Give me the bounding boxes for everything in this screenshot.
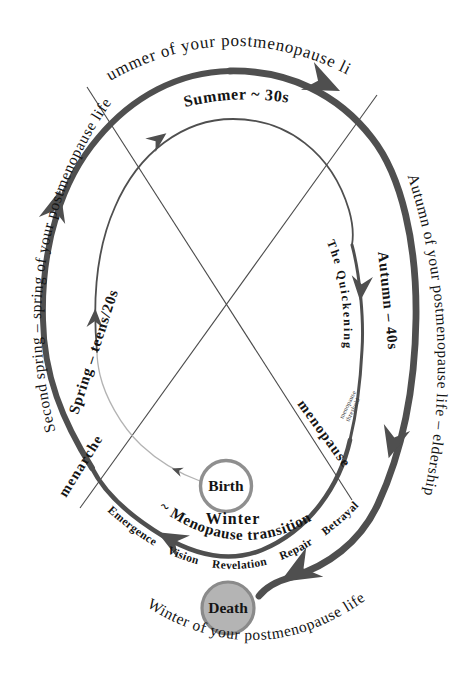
- caption-second-spring-text: Second spring – spring of your postmenop…: [27, 94, 114, 435]
- season-summer-30s: Summer ~ 30s: [182, 85, 291, 110]
- quickening-label: The Quickening: [324, 238, 355, 351]
- season-autumn-40s: Autumn – 40s: [375, 251, 401, 351]
- birth-label: Birth: [208, 477, 244, 494]
- season-summer-30s-text: Summer ~ 30s: [182, 85, 291, 110]
- birth-spiral-arrowhead-icon: [170, 464, 184, 477]
- birth-spiral-arc: [97, 352, 200, 481]
- caption-summer-postmenopause: Summer of your postmenopause life: [0, 0, 355, 85]
- caption-second-spring: Second spring – spring of your postmenop…: [27, 94, 114, 435]
- caption-summer-postmenopause-text: Summer of your postmenopause life: [0, 0, 355, 85]
- life-seasons-diagram: Birth Death Summer of your postmenopause…: [0, 0, 454, 677]
- season-spring-teens: Spring – teens/20s: [66, 287, 121, 416]
- inner-cycle-arc: [95, 119, 353, 352]
- diagram-canvas: Birth Death Summer of your postmenopause…: [0, 0, 454, 677]
- quickening-label-text: The Quickening: [324, 238, 355, 351]
- caption-autumn-eldership: Autumn of your postmenopause life – elde…: [405, 172, 452, 498]
- death-label: Death: [208, 599, 248, 616]
- menarche-label: menarche: [55, 431, 106, 499]
- quickening-arrowhead-icon: [350, 275, 373, 302]
- menopause-threshold-note: menopause threshold: [338, 388, 364, 423]
- caption-autumn-eldership-text: Autumn of your postmenopause life – elde…: [405, 172, 452, 498]
